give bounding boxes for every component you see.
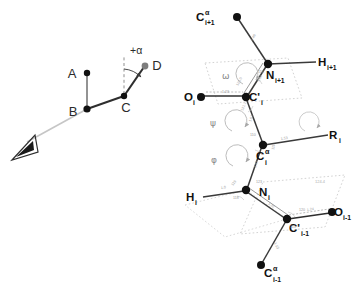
measurement-m8: 110 bbox=[250, 133, 256, 137]
atom-label-H-i-sub: i bbox=[195, 199, 197, 206]
point-C bbox=[121, 93, 127, 99]
figure-root: A B C D +α bbox=[0, 0, 360, 290]
measurement-m21: 124.4 bbox=[315, 179, 326, 184]
atom-N-i-plus-1 bbox=[264, 60, 272, 68]
atom-label-O-i-base: O bbox=[184, 91, 193, 103]
point-A bbox=[84, 70, 90, 76]
torsion-label-omega: ω bbox=[222, 71, 230, 81]
atom-label-CA-i-minus-1-base: C bbox=[264, 267, 272, 279]
atom-label-CA-i-plus-1-base: C bbox=[196, 11, 204, 23]
measurement-m18: 120 bbox=[299, 208, 305, 212]
atom-label-C-prime-i-sub: i bbox=[261, 99, 263, 106]
measurement-m1: 1.23 bbox=[222, 90, 229, 94]
atom-label-N-i-sub: i bbox=[268, 194, 270, 201]
atom-label-H-i-plus-1-sub: i+1 bbox=[327, 64, 337, 71]
atom-label-CA-i-minus-1-sub: i-1 bbox=[273, 276, 281, 283]
torsion-label-phi: φ bbox=[211, 155, 217, 165]
atom-label-H-i-plus-1-base: H bbox=[318, 56, 326, 68]
atom-label-N-i-plus-1-sub: i+1 bbox=[275, 77, 285, 84]
atom-label-H-i-base: H bbox=[186, 191, 194, 203]
atom-label-C-prime-i-minus-1-sub: i-1 bbox=[301, 230, 309, 237]
atom-N-i bbox=[242, 186, 250, 194]
point-label-A: A bbox=[68, 66, 77, 81]
torsion-label-psi: ψ bbox=[210, 118, 216, 128]
atom-label-R-i-base: R bbox=[329, 129, 338, 141]
atom-O-i bbox=[197, 93, 205, 101]
atom-label-CA-i-minus-1-sup: α bbox=[273, 264, 278, 273]
atom-label-CA-i-sup: α bbox=[265, 147, 270, 156]
measurement-m13: 1.0 bbox=[221, 185, 227, 190]
protein-dihedral-figure: A B C D +α bbox=[0, 0, 360, 290]
positive-alpha-label: +α bbox=[130, 44, 142, 56]
atom-label-N-i-base: N bbox=[259, 186, 267, 198]
measurement-m19: 115 bbox=[290, 225, 296, 229]
atom-CA-i-plus-1 bbox=[233, 13, 241, 21]
atom-label-CA-i-plus-1-sub: i+1 bbox=[205, 19, 215, 26]
atom-label-CA-i-plus-1-sup: α bbox=[205, 8, 210, 17]
measurement-m12: 123 bbox=[256, 180, 262, 184]
atom-label-C-prime-i-base: C' bbox=[249, 91, 260, 103]
atom-label-O-i-sub: i bbox=[193, 99, 195, 106]
point-label-C: C bbox=[121, 100, 130, 115]
point-label-D: D bbox=[152, 58, 161, 73]
point-label-B: B bbox=[69, 104, 78, 119]
atom-label-CA-i-base: C bbox=[256, 150, 264, 162]
figure-background bbox=[0, 0, 360, 290]
point-D bbox=[142, 63, 149, 70]
atom-label-N-i-plus-1-base: N bbox=[266, 69, 274, 81]
atom-label-R-i-sub: i bbox=[339, 137, 341, 144]
atom-label-O-i-minus-1-sub: i-1 bbox=[343, 214, 351, 221]
measurement-m15: 118 bbox=[233, 196, 239, 200]
measurement-m4: 116 bbox=[258, 70, 264, 74]
point-B bbox=[83, 105, 90, 112]
atom-label-CA-i-sub: i bbox=[265, 159, 267, 166]
atom-label-O-i-minus-1-base: O bbox=[334, 206, 343, 218]
